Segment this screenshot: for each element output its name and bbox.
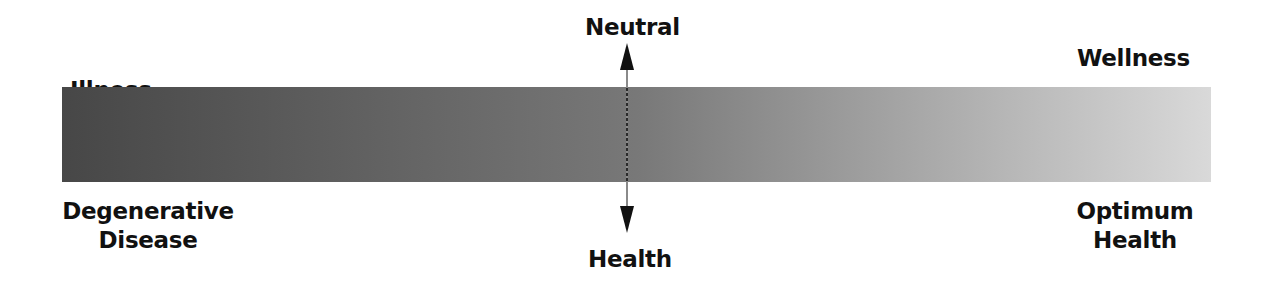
optimum-health-label: Optimum Health [1070, 197, 1200, 255]
double-headed-arrow-icon [615, 38, 639, 238]
wellness-label: Wellness [1077, 44, 1190, 73]
health-label: Health [588, 245, 672, 274]
degenerative-disease-label: Degenerative Disease [60, 197, 236, 255]
